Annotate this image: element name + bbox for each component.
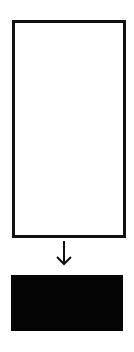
down-arrow-icon	[55, 240, 73, 266]
filled-black-rectangle-node	[11, 275, 123, 331]
empty-rectangle-node	[12, 20, 126, 238]
